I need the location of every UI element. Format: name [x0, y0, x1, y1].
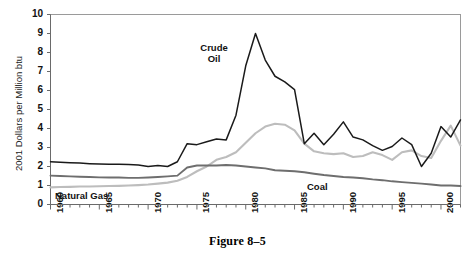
figure-container: 2001 Dollars per Million btu 01234567891… [0, 0, 475, 254]
series-label-crude-oil-line2: Oil [192, 53, 236, 64]
chart-plot-area [0, 0, 475, 254]
series-line-crude-oil [51, 34, 461, 167]
series-label-coal: Coal [307, 181, 328, 192]
series-label-crude-oil: Crude Oil [192, 42, 236, 64]
plot-frame [51, 15, 461, 205]
series-line-coal [51, 165, 461, 186]
figure-caption: Figure 8–5 [0, 234, 475, 249]
series-label-natural-gas: Natural Gas [55, 190, 108, 201]
series-label-crude-oil-line1: Crude [192, 42, 236, 53]
